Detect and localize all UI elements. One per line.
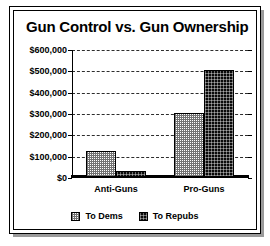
gridline	[72, 50, 248, 51]
y-axis-tick-mark	[68, 71, 72, 72]
x-axis-category-label: Pro-Guns	[183, 184, 224, 194]
y-axis-tick-mark-right	[248, 135, 252, 136]
y-axis-tick-label: $300,000	[29, 109, 67, 119]
legend-swatch	[139, 212, 148, 221]
frame-shadow-bottom	[13, 234, 264, 237]
legend-item-to-dems: To Dems	[71, 211, 122, 221]
legend-item-to-repubs: To Repubs	[139, 211, 199, 221]
y-axis-tick-mark-right	[248, 50, 252, 51]
y-axis-tick-mark-right	[248, 71, 252, 72]
y-axis-tick-label: $0	[57, 173, 67, 183]
plot-area: $0$100,000$200,000$300,000$400,000$500,0…	[72, 50, 248, 178]
chart-legend: To DemsTo Repubs	[14, 211, 256, 221]
y-axis-tick-label: $600,000	[29, 45, 67, 55]
y-axis-tick-mark-right	[248, 114, 252, 115]
y-axis-tick-label: $400,000	[29, 88, 67, 98]
chart-outer-frame: Gun Control vs. Gun Ownership $0$100,000…	[9, 6, 261, 234]
y-axis-tick-mark	[68, 114, 72, 115]
y-axis-tick-mark	[68, 50, 72, 51]
y-axis-tick-mark-right	[248, 157, 252, 158]
y-axis-tick-mark	[68, 178, 72, 179]
y-axis-tick-label: $100,000	[29, 152, 67, 162]
chart-inner-frame: Gun Control vs. Gun Ownership $0$100,000…	[13, 10, 257, 230]
legend-label: To Repubs	[153, 211, 199, 221]
bar-anti-guns-to-dems	[86, 151, 116, 177]
legend-swatch	[71, 212, 80, 221]
bar-pro-guns-to-dems	[174, 113, 204, 177]
y-axis-tick-mark	[68, 93, 72, 94]
y-axis-tick-mark-right	[248, 178, 252, 179]
y-axis-tick-label: $500,000	[29, 66, 67, 76]
y-axis-tick-mark	[68, 157, 72, 158]
y-axis-tick-label: $200,000	[29, 130, 67, 140]
x-axis-category-label: Anti-Guns	[94, 184, 138, 194]
bar-pro-guns-to-repubs	[204, 70, 234, 177]
y-axis-tick-mark-right	[248, 93, 252, 94]
frame-shadow-right	[261, 10, 264, 237]
chart-title: Gun Control vs. Gun Ownership	[26, 18, 249, 35]
y-axis-tick-mark	[68, 135, 72, 136]
bar-anti-guns-to-repubs	[116, 171, 146, 177]
legend-label: To Dems	[85, 211, 122, 221]
